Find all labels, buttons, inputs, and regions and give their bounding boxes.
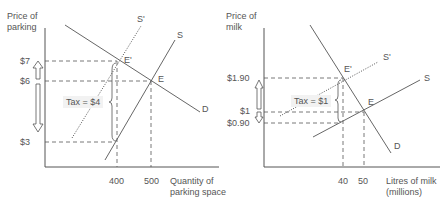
left-label-d: D [202, 104, 209, 114]
right-supply-shifted-curve [280, 62, 378, 116]
left-y-tick-3: $3 [20, 137, 30, 147]
left-chart [33, 25, 219, 167]
left-supply-shifted-curve [72, 26, 141, 138]
right-tax-brace [335, 80, 341, 122]
right-tax-label: Tax = $1 [291, 95, 331, 107]
left-label-s: S [177, 30, 183, 40]
left-x-axis-label-2: parking space [170, 187, 226, 197]
left-y-tick-7: $7 [20, 56, 30, 66]
right-guides [264, 78, 364, 167]
right-label-d: D [394, 141, 401, 151]
left-y-axis-label-2: parking [7, 22, 37, 32]
left-price-down-arrow [33, 84, 43, 132]
left-price-up-arrow [33, 61, 43, 79]
right-x-axis-label-2: (millions) [386, 187, 422, 197]
left-tax-brace [109, 63, 116, 141]
right-y-tick-190: $1.90 [227, 73, 250, 83]
left-point-e: E [158, 74, 164, 84]
right-y-tick-1: $1 [240, 106, 250, 116]
left-tax-label: Tax = $4 [63, 96, 103, 108]
left-point-e-prime: E' [124, 55, 132, 65]
left-x-axis-label-1: Quantity of [170, 176, 214, 186]
right-price-up-arrow [255, 80, 263, 109]
right-y-tick-090: $0.90 [227, 118, 250, 128]
right-demand-curve [310, 25, 391, 153]
right-x-tick-40: 40 [338, 176, 348, 186]
right-supply-curve [313, 80, 420, 137]
left-label-s-prime: S' [137, 14, 145, 24]
right-label-s-prime: S' [383, 52, 391, 62]
right-point-e: E [368, 97, 374, 107]
right-x-tick-50: 50 [358, 176, 368, 186]
right-chart [255, 25, 440, 167]
right-x-axis-label-1: Litres of milk [386, 176, 437, 186]
left-x-tick-400: 400 [109, 176, 124, 186]
right-price-down-arrow [255, 112, 263, 123]
left-y-tick-6: $6 [20, 76, 30, 86]
right-y-axis-label-1: Price of [226, 11, 257, 21]
left-x-tick-500: 500 [144, 176, 159, 186]
right-label-s: S [424, 73, 430, 83]
right-point-e-prime: E' [344, 64, 352, 74]
left-y-axis-label-1: Price of [7, 11, 38, 21]
right-y-axis-label-2: milk [226, 22, 242, 32]
left-guides [45, 61, 151, 167]
